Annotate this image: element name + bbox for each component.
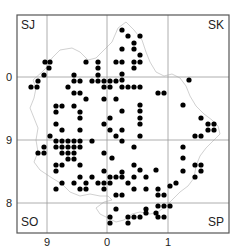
record-dot xyxy=(95,72,100,77)
record-dot xyxy=(131,46,136,51)
record-dot xyxy=(83,59,88,64)
record-dot xyxy=(153,167,158,172)
record-dot xyxy=(59,127,64,132)
record-dot xyxy=(71,150,76,155)
record-dot xyxy=(125,33,130,38)
record-dot xyxy=(101,96,106,101)
county-boundary xyxy=(30,22,220,222)
record-dot xyxy=(89,78,94,83)
record-dot xyxy=(173,180,178,185)
record-dot xyxy=(71,156,76,161)
record-dot xyxy=(77,90,82,95)
record-dot xyxy=(113,78,118,83)
record-dot xyxy=(161,214,166,219)
record-dot xyxy=(65,84,70,89)
record-dot xyxy=(137,115,142,120)
record-dot xyxy=(131,59,136,64)
record-dot xyxy=(95,65,100,70)
x-tick-label-1: 1 xyxy=(165,237,171,248)
grid-square-label-sj: SJ xyxy=(21,19,35,31)
record-dot xyxy=(83,180,88,185)
record-dot xyxy=(167,203,172,208)
record-dot xyxy=(137,52,142,57)
record-dot xyxy=(47,133,52,138)
record-dot xyxy=(119,46,124,51)
record-dot xyxy=(53,103,58,108)
record-dot xyxy=(155,90,160,95)
record-dot xyxy=(143,174,148,179)
record-dot xyxy=(53,109,58,114)
x-tick-label-0: 0 xyxy=(104,237,110,248)
record-dot xyxy=(205,127,210,132)
record-dot xyxy=(211,127,216,132)
record-dot xyxy=(107,220,112,225)
record-dot xyxy=(59,162,64,167)
record-dot xyxy=(113,192,118,197)
record-dot xyxy=(101,186,106,191)
record-dot xyxy=(77,138,82,143)
record-dot xyxy=(34,84,39,89)
record-dot xyxy=(41,144,46,149)
record-dot xyxy=(113,174,118,179)
record-dot xyxy=(137,133,142,138)
record-dot xyxy=(155,186,160,191)
grid-square-label-sk: SK xyxy=(208,19,224,31)
record-dot xyxy=(71,90,76,95)
distribution-map xyxy=(0,0,239,250)
record-dot xyxy=(119,174,124,179)
record-dot xyxy=(137,121,142,126)
record-dot xyxy=(53,144,58,149)
record-dot xyxy=(131,162,136,167)
record-dot xyxy=(89,174,94,179)
record-dot xyxy=(71,138,76,143)
record-dot xyxy=(131,174,136,179)
record-dot xyxy=(77,109,82,114)
record-dot xyxy=(107,174,112,179)
record-dot xyxy=(119,77,124,82)
record-dot xyxy=(53,186,58,191)
record-dot xyxy=(137,108,142,113)
record-dot xyxy=(107,127,112,132)
record-dot xyxy=(77,144,82,149)
record-dot xyxy=(161,90,166,95)
record-dot xyxy=(77,127,82,132)
record-dot xyxy=(161,203,166,208)
record-dot xyxy=(131,144,136,149)
record-dot xyxy=(59,150,64,155)
record-dot xyxy=(155,203,160,208)
record-dot xyxy=(113,133,118,138)
record-dot xyxy=(161,192,166,197)
record-dot xyxy=(107,78,112,83)
record-dot xyxy=(113,59,118,64)
grid-square-label-so: SO xyxy=(21,216,38,228)
record-dot xyxy=(137,214,142,219)
record-dot xyxy=(119,59,124,64)
record-dot xyxy=(125,214,130,219)
record-dot xyxy=(65,144,70,149)
record-dot xyxy=(137,167,142,172)
record-dot xyxy=(65,156,70,161)
record-dot xyxy=(65,138,70,143)
record-dot xyxy=(59,103,64,108)
record-dot xyxy=(180,155,185,160)
record-dot xyxy=(95,78,100,83)
record-dot xyxy=(137,59,142,64)
record-dot xyxy=(155,214,160,219)
record-dot xyxy=(107,115,112,120)
record-dot xyxy=(65,150,70,155)
record-dot xyxy=(101,84,106,89)
record-dot xyxy=(180,144,185,149)
record-dot xyxy=(198,168,203,173)
y-tick-label-8: 8 xyxy=(6,198,12,209)
record-dot xyxy=(77,174,82,179)
record-dot xyxy=(119,27,124,32)
record-dot xyxy=(77,115,82,120)
record-dot xyxy=(71,144,76,149)
x-tick-label-9: 9 xyxy=(44,237,50,248)
record-dot xyxy=(42,59,47,64)
record-dot xyxy=(180,102,185,107)
y-tick-label-0: 0 xyxy=(6,72,12,83)
record-dot xyxy=(59,144,64,149)
record-dot xyxy=(205,121,210,126)
record-dot xyxy=(35,150,40,155)
